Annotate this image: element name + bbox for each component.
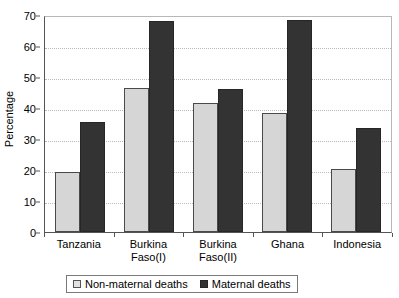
x-tick-mark <box>392 233 393 237</box>
bar <box>262 113 287 232</box>
bars-layer <box>45 17 391 232</box>
y-tick-mark <box>36 233 40 234</box>
y-tick-label: 70 <box>24 10 36 22</box>
x-tick-mark <box>44 233 45 237</box>
bar <box>124 88 149 232</box>
y-tick-mark <box>36 171 40 172</box>
y-tick-label: 60 <box>24 41 36 53</box>
x-axis-tick-labels: TanzaniaBurkinaFaso(I)BurkinaFaso(II)Gha… <box>44 238 392 270</box>
x-tick-label: BurkinaFaso(I) <box>114 238 184 270</box>
y-tick-label: 40 <box>24 103 36 115</box>
plot-area <box>44 16 392 233</box>
legend-entry: Maternal deaths <box>200 278 291 290</box>
bar <box>356 128 381 232</box>
x-tick-label: Tanzania <box>44 238 114 270</box>
legend-swatch-maternal <box>200 280 208 288</box>
x-tick-label: BurkinaFaso(II) <box>183 238 253 270</box>
bar <box>149 21 174 232</box>
y-tick-label: 30 <box>24 134 36 146</box>
bar <box>80 122 105 232</box>
x-tick-mark <box>183 233 184 237</box>
x-tick-label: Indonesia <box>322 238 392 270</box>
y-axis-tick-labels: 010203040506070 <box>16 16 40 233</box>
bar <box>218 89 243 232</box>
bar-group <box>114 17 183 232</box>
bar-group <box>45 17 114 232</box>
bar-group <box>322 17 391 232</box>
y-tick-mark <box>36 202 40 203</box>
x-tick-mark <box>114 233 115 237</box>
legend-label: Non-maternal deaths <box>85 278 188 290</box>
x-tick-label: Ghana <box>253 238 323 270</box>
y-tick-label: 50 <box>24 72 36 84</box>
bar-group <box>183 17 252 232</box>
x-tick-mark <box>253 233 254 237</box>
y-tick-mark <box>36 109 40 110</box>
bar-chart-figure: Percentage 010203040506070 TanzaniaBurki… <box>0 0 399 298</box>
y-tick-label: 10 <box>24 196 36 208</box>
x-tick-mark <box>322 233 323 237</box>
legend-entry: Non-maternal deaths <box>73 278 188 290</box>
y-tick-label: 20 <box>24 165 36 177</box>
y-tick-mark <box>36 140 40 141</box>
bar <box>287 20 312 232</box>
chart-legend: Non-maternal deathsMaternal deaths <box>66 275 298 293</box>
y-tick-mark <box>36 47 40 48</box>
y-axis-title-label: Percentage <box>3 91 15 147</box>
bar <box>331 169 356 232</box>
legend-swatch-non-maternal <box>73 280 81 288</box>
bar-group <box>253 17 322 232</box>
legend-label: Maternal deaths <box>212 278 291 290</box>
y-tick-mark <box>36 16 40 17</box>
bar <box>55 172 80 232</box>
bar <box>193 103 218 232</box>
y-tick-mark <box>36 78 40 79</box>
